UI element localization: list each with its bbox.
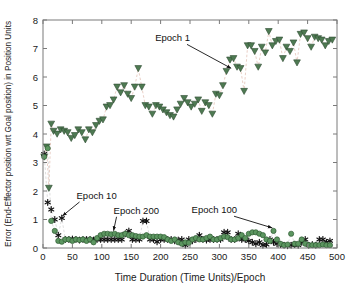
data-point-circle [91, 240, 96, 245]
x-tick-label: 50 [67, 251, 78, 262]
data-point-circle [49, 218, 54, 223]
y-tick-label: 4 [33, 129, 38, 140]
x-tick-label: 300 [211, 251, 227, 262]
y-tick-label: 7 [33, 43, 38, 54]
data-point-circle [260, 233, 265, 238]
data-point-circle [271, 228, 276, 233]
annotation-label-0: Epoch 1 [155, 32, 190, 43]
x-tick-label: 350 [241, 251, 257, 262]
x-tick-label: 250 [182, 251, 198, 262]
x-tick-label: 450 [300, 251, 316, 262]
x-tick-label: 400 [270, 251, 286, 262]
data-point-circle [296, 241, 301, 246]
y-tick-label: 6 [33, 72, 38, 83]
data-point-circle [285, 242, 290, 247]
data-point-circle [274, 237, 279, 242]
error-vs-time-scatter-plot: 050100150200250300350400450500012345678 … [0, 0, 358, 292]
annotation-label-1: Epoch 10 [77, 190, 117, 201]
data-point-circle [267, 238, 272, 243]
y-tick-label: 0 [33, 243, 38, 254]
annotation-label-3: Epoch 100 [192, 204, 237, 215]
chart-figure: 050100150200250300350400450500012345678 … [0, 0, 358, 292]
y-tick-label: 5 [33, 100, 38, 111]
data-point-circle [45, 146, 50, 151]
y-axis-title: Error (End-Effector position wrt Goal po… [4, 21, 13, 247]
y-tick-label: 8 [33, 15, 38, 26]
x-tick-label: 500 [329, 251, 345, 262]
data-point-circle [289, 231, 294, 236]
data-point-circle [299, 237, 304, 242]
x-axis-title: Time Duration (Time Units)/Epoch [115, 272, 265, 283]
data-point-circle [327, 243, 332, 248]
data-point-circle [42, 154, 47, 159]
x-tick-label: 200 [153, 251, 169, 262]
y-tick-label: 3 [33, 157, 38, 168]
x-tick-label: 100 [94, 251, 110, 262]
annotation-label-2: Epoch 200 [114, 205, 159, 216]
y-tick-label: 2 [33, 186, 38, 197]
data-point-circle [243, 235, 248, 240]
data-point-circle [52, 228, 57, 233]
x-tick-label: 150 [123, 251, 139, 262]
y-tick-label: 1 [33, 214, 38, 225]
x-tick-label: 0 [40, 251, 45, 262]
